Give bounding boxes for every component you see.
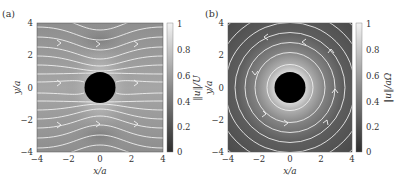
svg-text:0: 0 bbox=[219, 83, 224, 93]
panel-a-x-ticks: −4 −2 0 2 4 bbox=[31, 154, 166, 164]
panel-b-colorbar-ticks: 1 0.8 0.6 0.4 0.2 0 bbox=[366, 19, 380, 157]
svg-text:2: 2 bbox=[129, 154, 134, 164]
panel-b-plot-area bbox=[202, 0, 378, 176]
svg-text:0.8: 0.8 bbox=[177, 45, 191, 55]
svg-text:1: 1 bbox=[177, 19, 182, 29]
panel-a-colorbar-ticks: 1 0.8 0.6 0.4 0.2 0 bbox=[177, 19, 191, 157]
panel-b-label: (b) bbox=[205, 8, 219, 19]
panel-b-x-ticks: −4 −2 0 2 4 bbox=[222, 154, 355, 164]
svg-text:0.2: 0.2 bbox=[177, 122, 191, 132]
svg-text:−2: −2 bbox=[62, 154, 75, 164]
svg-text:2: 2 bbox=[28, 50, 33, 60]
svg-text:−2: −2 bbox=[253, 154, 266, 164]
svg-text:0: 0 bbox=[287, 154, 292, 164]
svg-text:4: 4 bbox=[219, 18, 224, 28]
svg-text:2: 2 bbox=[219, 50, 224, 60]
panel-b: (b) bbox=[202, 0, 394, 176]
panel-a-label: (a) bbox=[2, 8, 15, 19]
svg-text:0: 0 bbox=[366, 147, 371, 157]
figure: (a) bbox=[0, 0, 402, 184]
svg-text:−4: −4 bbox=[211, 147, 224, 157]
svg-text:4: 4 bbox=[28, 18, 33, 28]
panel-b-x-label: x/a bbox=[283, 166, 296, 176]
svg-text:0: 0 bbox=[177, 147, 182, 157]
svg-text:0.2: 0.2 bbox=[366, 122, 380, 132]
panel-b-y-label: y/a bbox=[204, 81, 214, 95]
panel-a-y-label: y/a bbox=[12, 81, 22, 95]
svg-text:1: 1 bbox=[366, 19, 371, 29]
cylinder-obstacle bbox=[85, 72, 116, 103]
svg-text:4: 4 bbox=[349, 154, 354, 164]
svg-text:0.8: 0.8 bbox=[366, 45, 380, 55]
svg-text:0.4: 0.4 bbox=[366, 97, 380, 107]
panel-a-plot-area bbox=[37, 6, 163, 158]
svg-text:0.6: 0.6 bbox=[177, 71, 191, 81]
panel-b-colorbar-label: ‖u‖/aΩ bbox=[383, 72, 394, 103]
panel-a-y-ticks: 4 2 0 −2 −4 bbox=[20, 18, 33, 157]
panel-b-colorbar bbox=[356, 23, 362, 152]
svg-text:−2: −2 bbox=[211, 115, 224, 125]
panel-a-colorbar bbox=[167, 23, 173, 152]
svg-text:−2: −2 bbox=[20, 115, 33, 125]
svg-text:−4: −4 bbox=[20, 147, 33, 157]
svg-text:0.6: 0.6 bbox=[366, 71, 380, 81]
rotating-cylinder bbox=[275, 72, 306, 103]
panel-a-x-label: x/a bbox=[93, 166, 106, 176]
svg-text:0: 0 bbox=[28, 83, 33, 93]
svg-text:0: 0 bbox=[97, 154, 102, 164]
svg-text:2: 2 bbox=[318, 154, 323, 164]
svg-text:4: 4 bbox=[160, 154, 165, 164]
panel-a: (a) bbox=[2, 6, 203, 176]
panel-a-colorbar-label: ‖u‖/U bbox=[192, 75, 203, 101]
svg-text:0.4: 0.4 bbox=[177, 97, 191, 107]
